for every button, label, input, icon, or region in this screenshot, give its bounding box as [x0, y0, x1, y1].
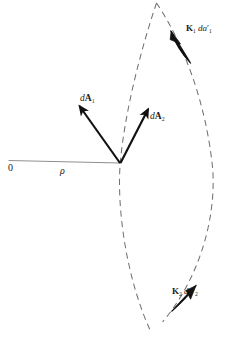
- K1-sub: 1: [193, 28, 196, 34]
- K2-K: K: [172, 286, 179, 296]
- flux-arrow-K1: [170, 31, 191, 64]
- dA1-label: dA1: [80, 94, 95, 104]
- K1-da-sub: 1: [209, 28, 212, 34]
- figure-canvas: 0 ρ dA1 dA2 K1 da′1 K2 da′2: [0, 0, 228, 337]
- rho-label: ρ: [60, 166, 65, 176]
- K1-da: da: [198, 23, 207, 33]
- arc-outer-right: [157, 3, 214, 322]
- vector-dA2: [121, 109, 149, 163]
- dA1-sub: 1: [92, 98, 95, 104]
- K1-da1-label: K1 da′1: [186, 24, 212, 33]
- dA2-A: A: [155, 111, 162, 121]
- radial-axis-line: [9, 161, 121, 164]
- dA2-sub: 2: [162, 116, 165, 122]
- dA1-A: A: [85, 93, 92, 103]
- K2-sub: 2: [179, 291, 182, 297]
- K2-da: da: [184, 286, 193, 296]
- K1-K: K: [186, 23, 193, 33]
- vector-dA1: [80, 106, 121, 163]
- dA2-label: dA2: [150, 112, 165, 122]
- K2-da-sub: 2: [195, 291, 198, 297]
- K2-da2-label: K2 da′2: [172, 287, 198, 296]
- arc-through-vertex: [120, 3, 157, 331]
- origin-label: 0: [8, 163, 13, 173]
